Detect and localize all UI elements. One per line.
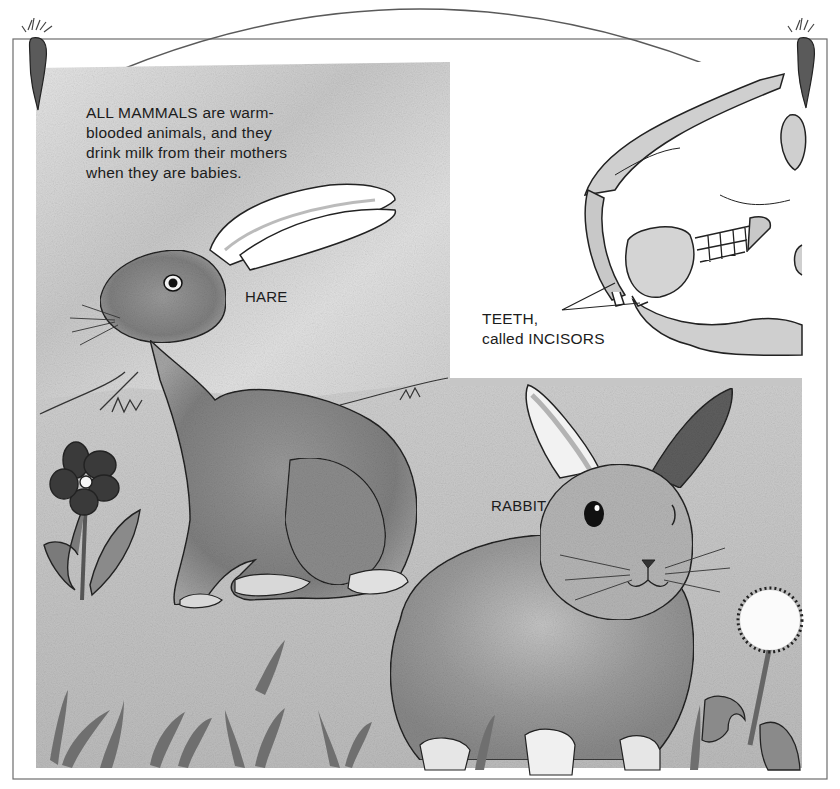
intro-line: drink milk from their mothers [86, 143, 326, 163]
intro-paragraph: ALL MAMMALS are warm- blooded animals, a… [86, 103, 326, 183]
teeth-label-line2: called INCISORS [482, 329, 605, 349]
intro-line: blooded animals, and they [86, 123, 326, 143]
teeth-label: TEETH, called INCISORS [482, 309, 605, 349]
rabbit-label: RABBIT [491, 497, 546, 514]
intro-line: when they are babies. [86, 163, 326, 183]
hare-label: HARE [245, 288, 287, 305]
book-page: ALL MAMMALS are warm- blooded animals, a… [0, 0, 840, 789]
teeth-label-line1: TEETH, [482, 309, 605, 329]
intro-line: ALL MAMMALS are warm- [86, 103, 326, 123]
